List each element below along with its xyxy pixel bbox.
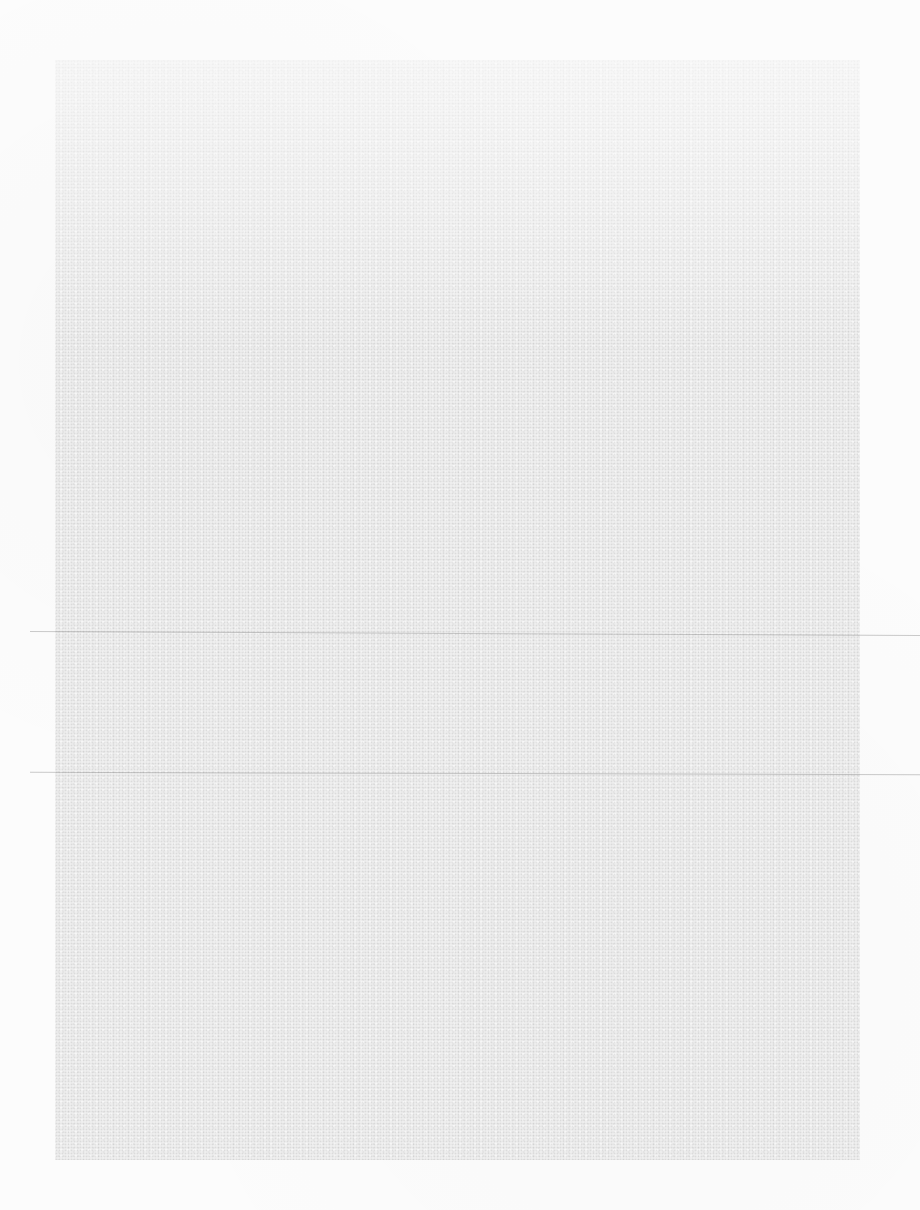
scanned-paper-area (55, 60, 860, 1160)
blank-page (0, 0, 920, 1210)
